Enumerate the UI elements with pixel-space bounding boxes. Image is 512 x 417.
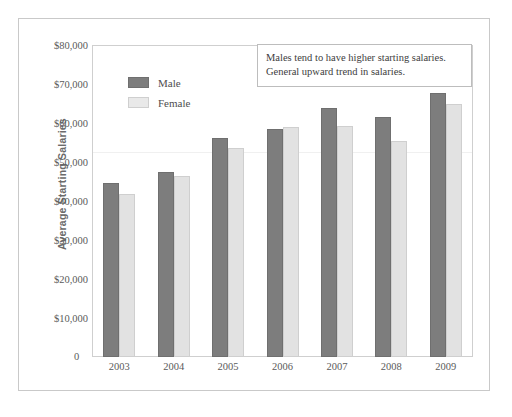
- bar-male-2004[interactable]: [158, 172, 174, 357]
- x-axis-tick-label: 2005: [218, 361, 239, 372]
- legend-label-male: Male: [158, 77, 181, 89]
- x-axis-tick-label: 2008: [381, 361, 402, 372]
- x-axis-tick-labels: 2003200420052006200720082009: [92, 361, 473, 383]
- y-axis-tick-label: $80,000: [10, 40, 88, 51]
- bar-female-2009[interactable]: [446, 104, 462, 357]
- x-axis-tick-label: 2006: [272, 361, 293, 372]
- x-axis-tick-label: 2004: [163, 361, 184, 372]
- bar-male-2009[interactable]: [430, 93, 446, 357]
- x-axis-tick-label: 2007: [326, 361, 347, 372]
- bar-female-2003[interactable]: [119, 194, 135, 357]
- bar-male-2006[interactable]: [267, 129, 283, 357]
- bar-female-2006[interactable]: [283, 127, 299, 357]
- bar-male-2008[interactable]: [375, 117, 391, 357]
- x-axis-tick-label: 2003: [109, 361, 130, 372]
- legend-swatch-male-icon: [128, 77, 149, 88]
- y-axis-tick-label: $60,000: [10, 118, 88, 129]
- bar-group: [321, 45, 353, 357]
- bar-male-2005[interactable]: [212, 138, 228, 357]
- bar-female-2008[interactable]: [391, 141, 407, 357]
- annotation-line-1: Males tend to have higher starting salar…: [266, 51, 463, 65]
- bar-female-2005[interactable]: [228, 148, 244, 357]
- y-axis-tick-label: $10,000: [10, 313, 88, 324]
- y-axis-tick-label: $30,000: [10, 235, 88, 246]
- y-axis-tick-label: $50,000: [10, 157, 88, 168]
- y-axis-tick-label: $20,000: [10, 274, 88, 285]
- legend-label-female: Female: [158, 97, 190, 109]
- annotation-line-2: General upward trend in salaries.: [266, 65, 463, 79]
- bar-female-2007[interactable]: [337, 126, 353, 357]
- bar-group: [375, 45, 407, 357]
- y-axis-tick-labels: $80,000$70,000$60,000$50,000$40,000$30,0…: [4, 45, 88, 357]
- bar-group: [267, 45, 299, 357]
- chart-page: Average Starting Salaries $80,000$70,000…: [0, 0, 512, 417]
- y-axis-tick-label: $40,000: [10, 196, 88, 207]
- x-axis-tick-label: 2009: [435, 361, 456, 372]
- chart-legend: Male Female: [128, 76, 238, 116]
- bar-male-2003[interactable]: [103, 183, 119, 357]
- annotation-textbox: Males tend to have higher starting salar…: [257, 44, 472, 87]
- legend-swatch-female-icon: [128, 97, 149, 108]
- y-axis-tick-label: $70,000: [10, 79, 88, 90]
- bar-female-2004[interactable]: [174, 176, 190, 357]
- bar-male-2007[interactable]: [321, 108, 337, 357]
- y-axis-zero-label: 0: [74, 351, 79, 362]
- bar-group: [430, 45, 462, 357]
- legend-item-female: Female: [128, 96, 238, 109]
- legend-item-male: Male: [128, 76, 238, 89]
